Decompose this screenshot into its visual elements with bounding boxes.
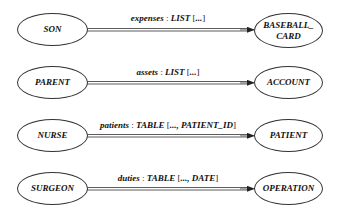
edge-label-assets: assets : LIST [...] xyxy=(88,67,248,77)
edge-type: TABLE xyxy=(136,120,165,130)
source-node-son: SON xyxy=(17,13,88,46)
edge-label-expenses: expenses : LIST [...] xyxy=(88,13,248,23)
edge-attribute: patients xyxy=(100,120,129,130)
node-label: SURGEON xyxy=(31,183,74,194)
edge-type: LIST xyxy=(171,13,191,23)
edge-surgeon-operation xyxy=(87,188,254,191)
target-node-baseball-card: BASEBALL_ CARD xyxy=(254,13,323,48)
source-node-nurse: NURSE xyxy=(17,119,88,152)
edge-args: ..., PATIENT_ID xyxy=(170,120,233,130)
node-label: BASEBALL_ CARD xyxy=(263,20,314,42)
node-label: PARENT xyxy=(35,77,70,88)
target-node-account: ACCOUNT xyxy=(254,66,323,99)
edge-son-baseball-card xyxy=(87,29,254,32)
node-label: NURSE xyxy=(37,130,67,141)
edge-args: ... xyxy=(190,67,197,77)
node-label: PATIENT xyxy=(270,130,307,141)
entity-relationship-diagram: SON expenses : LIST [...] BASEBALL_ CARD… xyxy=(0,0,345,216)
node-label: ACCOUNT xyxy=(267,77,310,88)
edge-parent-account xyxy=(87,82,254,85)
target-node-operation: OPERATION xyxy=(254,172,323,205)
source-node-surgeon: SURGEON xyxy=(17,172,88,205)
edge-attribute: assets xyxy=(136,67,158,77)
target-node-patient: PATIENT xyxy=(254,119,323,152)
node-label: OPERATION xyxy=(263,183,315,194)
edge-type: TABLE xyxy=(147,173,176,183)
edge-attribute: expenses xyxy=(131,13,164,23)
source-node-parent: PARENT xyxy=(17,66,88,99)
edge-args: ..., DATE xyxy=(181,173,216,183)
edge-type: LIST xyxy=(165,67,185,77)
node-label: SON xyxy=(43,24,61,35)
edge-label-patients: patients : TABLE [..., PATIENT_ID] xyxy=(88,120,248,130)
edge-attribute: duties xyxy=(118,173,140,183)
edge-nurse-patient xyxy=(87,135,254,138)
edge-label-duties: duties : TABLE [..., DATE] xyxy=(88,173,248,183)
